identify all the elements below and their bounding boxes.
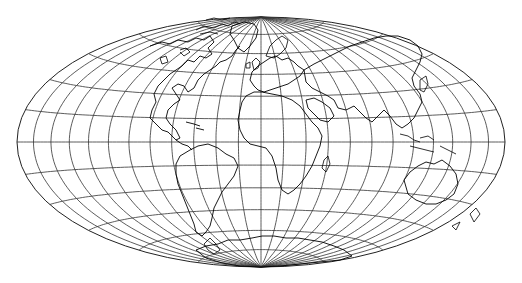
graticule-lines — [17, 17, 505, 267]
world-map — [0, 0, 522, 283]
